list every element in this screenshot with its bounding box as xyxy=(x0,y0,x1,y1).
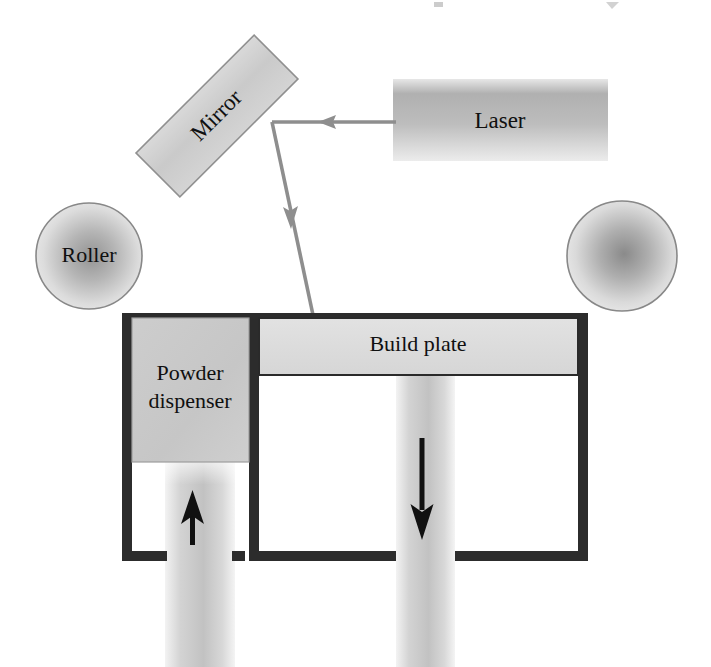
figure-canvas: Roller Mirror Laser xyxy=(0,0,711,667)
wall-divider xyxy=(249,313,259,561)
powder-dispenser-label-line2: dispenser xyxy=(148,388,232,413)
powder-bed-fusion-diagram: Roller Mirror Laser xyxy=(0,0,711,667)
build-plate-label: Build plate xyxy=(369,331,466,356)
wall-bottom-left-a xyxy=(122,551,167,561)
mirror: Mirror xyxy=(136,35,298,197)
roller-left: Roller xyxy=(36,203,142,309)
roller-right xyxy=(567,201,677,311)
piston-left-shaft-topfade xyxy=(165,455,235,667)
powder-dispenser: Powder dispenser xyxy=(132,318,249,462)
ghost-artifact-group xyxy=(434,2,619,9)
piston-left xyxy=(165,455,235,667)
wall-left-outer xyxy=(122,313,132,561)
wall-bottom-right-b xyxy=(455,551,588,561)
laser-beam-path xyxy=(272,115,396,315)
wall-bottom-right-a xyxy=(249,551,396,561)
laser-label: Laser xyxy=(474,108,525,133)
wall-bottom-left-stub xyxy=(232,551,245,561)
ghost-mark-1 xyxy=(434,2,443,7)
piston-right-arrow-shaft xyxy=(420,438,425,510)
ghost-mark-2 xyxy=(606,2,619,9)
piston-right xyxy=(396,375,455,667)
powder-dispenser-label-line1: Powder xyxy=(156,360,224,385)
build-plate: Build plate xyxy=(259,318,578,375)
roller-right-body xyxy=(567,201,677,311)
laser-source: Laser xyxy=(393,79,608,161)
roller-left-label: Roller xyxy=(62,242,118,267)
wall-right-outer xyxy=(578,313,588,561)
